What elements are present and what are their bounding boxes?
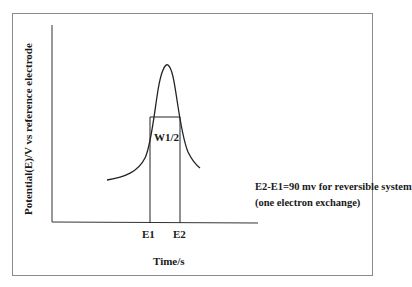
annotation-line-2: (one electron exchange): [255, 195, 412, 211]
tick-e1: E1: [142, 228, 155, 240]
annotation-line-1: E2-E1=90 mv for reversible system: [255, 179, 412, 195]
peak-curve: [107, 65, 200, 180]
x-axis: [52, 222, 258, 223]
y-axis-label: Potential(E)/V vs reference electrode: [22, 29, 36, 229]
annotation: E2-E1=90 mv for reversible system (one e…: [255, 179, 412, 211]
x-axis-label: Time/s: [153, 255, 185, 267]
half-width-label: W1/2: [154, 131, 179, 143]
tick-e2: E2: [173, 228, 186, 240]
